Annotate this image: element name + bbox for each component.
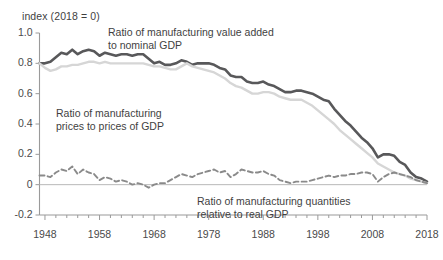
y-tick-label: -0.2 [14,208,32,220]
annot-value-added: Ratio of manufacturing value added to no… [108,26,274,51]
x-tick-label: 1978 [184,228,234,240]
y-tick-label: 0.8 [18,56,33,68]
y-tick-label: 0.6 [18,87,33,99]
x-tick-label: 1958 [75,228,125,240]
y-tick-label: 0.2 [18,147,33,159]
x-tick-label: 1988 [238,228,288,240]
x-tick-label: 2008 [347,228,397,240]
x-tick-label: 1948 [20,228,70,240]
x-tick-label: 1968 [129,228,179,240]
y-tick-label: 1.0 [18,26,33,38]
y-tick-label: 0 [27,178,33,190]
annot-quantities: Ratio of manufacturing quantities relati… [197,195,351,220]
x-tick-label: 1998 [293,228,343,240]
annot-prices: Ratio of manufacturing prices to prices … [56,107,164,132]
x-tick-label: 2018 [402,228,443,240]
y-tick-label: 0.4 [18,117,33,129]
